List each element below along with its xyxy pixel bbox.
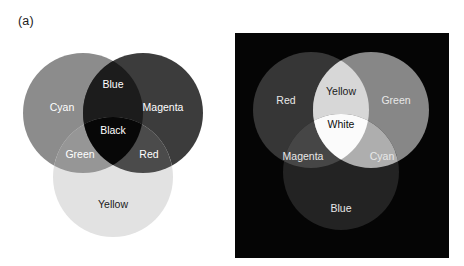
region-label-magenta: Magenta bbox=[283, 150, 324, 162]
region-label-magenta: Magenta bbox=[143, 101, 184, 113]
region-label-yellow: Yellow bbox=[326, 85, 356, 97]
region-label-white: White bbox=[328, 118, 355, 130]
region-label-green: Green bbox=[381, 94, 410, 106]
color-mixing-venn-figure: (a) Cyan Magenta Yellow bbox=[0, 0, 464, 266]
region-label-cyan: Cyan bbox=[50, 101, 75, 113]
region-label-green: Green bbox=[65, 148, 94, 160]
region-label-cyan: Cyan bbox=[370, 150, 395, 162]
region-label-blue: Blue bbox=[330, 202, 351, 214]
region-label-blue: Blue bbox=[102, 78, 123, 90]
panel-a-venn-svg: Cyan Magenta Yellow Blue Green Red Black bbox=[0, 0, 232, 266]
region-label-yellow: Yellow bbox=[98, 198, 128, 210]
region-label-black: Black bbox=[100, 124, 126, 136]
panel-b-venn-svg: Red Green Blue Yellow Magenta Cyan White bbox=[232, 0, 464, 266]
region-label-red: Red bbox=[139, 148, 158, 160]
region-label-red: Red bbox=[276, 94, 295, 106]
